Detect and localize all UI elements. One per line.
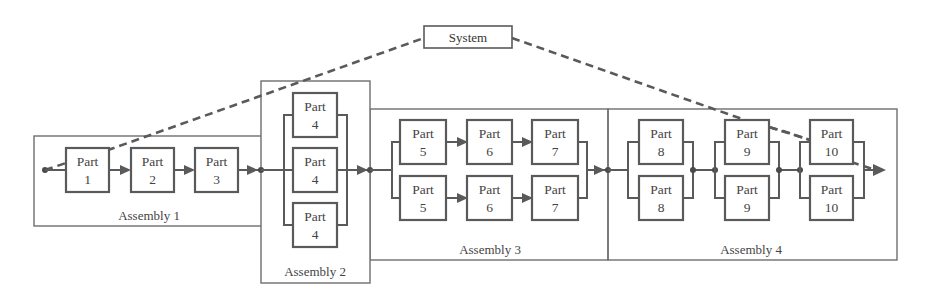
part-10-top: Part 10 — [810, 120, 853, 164]
svg-text:Part: Part — [304, 209, 326, 224]
svg-text:Part: Part — [736, 182, 758, 197]
svg-text:Part: Part — [412, 182, 434, 197]
assembly-3-label: Assembly 3 — [459, 242, 521, 257]
part-4-b: Part 4 — [293, 148, 337, 192]
part-6-bottom: Part 6 — [467, 176, 512, 220]
arrow-icon — [594, 165, 605, 175]
svg-text:9: 9 — [744, 200, 751, 215]
svg-text:Part: Part — [650, 126, 672, 141]
part-8-top: Part 8 — [639, 120, 683, 164]
svg-text:6: 6 — [486, 200, 493, 215]
part-7-top: Part 7 — [532, 120, 578, 164]
svg-text:Part: Part — [821, 182, 843, 197]
svg-text:7: 7 — [552, 200, 559, 215]
part-1: Part 1 — [66, 148, 109, 192]
part-2: Part 2 — [131, 148, 174, 192]
arrow-icon — [120, 165, 131, 175]
svg-text:Part: Part — [206, 154, 228, 169]
svg-text:5: 5 — [420, 200, 427, 215]
svg-text:Part: Part — [821, 126, 843, 141]
svg-text:Part: Part — [650, 182, 672, 197]
svg-text:9: 9 — [744, 144, 751, 159]
assembly-3: Part 5 Part 6 Part 7 Part 5 Part 6 Part … — [370, 120, 611, 257]
svg-text:Part: Part — [544, 182, 566, 197]
svg-text:6: 6 — [486, 144, 493, 159]
assembly-4: Part 8 Part 8 Part 9 Part 9 Part 10 Part… — [608, 120, 886, 257]
reliability-block-diagram: System Part 1 Part 2 Part 3 Assembly 1 — [0, 0, 931, 300]
svg-text:Part: Part — [77, 154, 99, 169]
svg-text:4: 4 — [312, 117, 319, 132]
arrow-icon — [247, 165, 258, 175]
svg-text:Part: Part — [304, 154, 326, 169]
part-4-a: Part 4 — [293, 93, 337, 137]
svg-text:3: 3 — [213, 172, 220, 187]
assembly-2-label: Assembly 2 — [284, 264, 346, 279]
part-4-c: Part 4 — [293, 203, 337, 247]
svg-text:8: 8 — [658, 144, 665, 159]
part-3: Part 3 — [195, 148, 238, 192]
part-5-bottom: Part 5 — [400, 176, 446, 220]
junction-node — [690, 167, 696, 173]
svg-text:4: 4 — [312, 227, 319, 242]
svg-text:7: 7 — [552, 144, 559, 159]
part-5-top: Part 5 — [400, 120, 446, 164]
part-9-bottom: Part 9 — [725, 176, 769, 220]
arrow-icon — [184, 165, 195, 175]
svg-text:Part: Part — [736, 126, 758, 141]
svg-text:Part: Part — [544, 126, 566, 141]
svg-text:5: 5 — [420, 144, 427, 159]
svg-text:Part: Part — [142, 154, 164, 169]
svg-text:1: 1 — [84, 172, 91, 187]
part-9-top: Part 9 — [725, 120, 769, 164]
junction-node — [776, 167, 782, 173]
system-label: System — [449, 30, 487, 45]
assembly-1-label: Assembly 1 — [118, 208, 180, 223]
assembly-1: Part 1 Part 2 Part 3 Assembly 1 — [42, 148, 264, 223]
svg-text:2: 2 — [149, 172, 156, 187]
svg-text:Part: Part — [479, 126, 501, 141]
svg-text:4: 4 — [312, 172, 319, 187]
svg-text:10: 10 — [825, 144, 839, 159]
svg-text:10: 10 — [825, 200, 839, 215]
part-10-bottom: Part 10 — [810, 176, 853, 220]
output-arrow-icon — [873, 164, 886, 176]
system-node: System — [424, 26, 512, 48]
part-8-bottom: Part 8 — [639, 176, 683, 220]
assembly-4-label: Assembly 4 — [720, 242, 782, 257]
svg-text:8: 8 — [658, 200, 665, 215]
svg-text:Part: Part — [479, 182, 501, 197]
svg-text:Part: Part — [304, 99, 326, 114]
part-6-top: Part 6 — [467, 120, 512, 164]
part-7-bottom: Part 7 — [532, 176, 578, 220]
svg-text:Part: Part — [412, 126, 434, 141]
